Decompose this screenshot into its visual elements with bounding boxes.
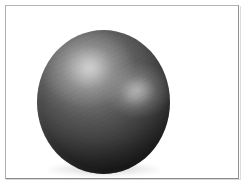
image-canvas xyxy=(6,6,238,178)
photo-frame xyxy=(5,5,239,179)
film-grain-overlay xyxy=(37,30,170,174)
sphere xyxy=(37,30,170,174)
image-viewport xyxy=(0,0,246,188)
frame-bottom-shade xyxy=(6,179,240,180)
frame-right-shade xyxy=(240,6,241,180)
